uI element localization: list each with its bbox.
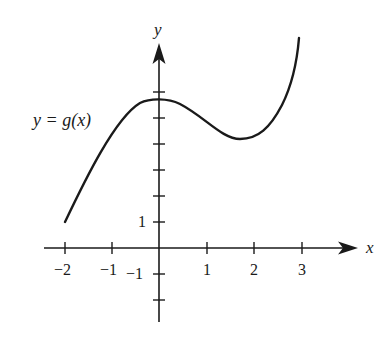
y-tick-label-1: 1 — [138, 213, 146, 230]
x-tick-label: −1 — [100, 261, 117, 278]
function-label: y = g(x) — [31, 110, 91, 131]
y-tick-label-neg1: −1 — [126, 265, 143, 282]
x-axis-label: x — [365, 238, 374, 257]
x-tick-label: 2 — [250, 261, 258, 278]
curve-g — [65, 38, 299, 222]
x-tick-label: −2 — [54, 261, 71, 278]
graph-of-g: x y −2 −1 1 2 3 1 −1 y = g(x) — [0, 0, 381, 344]
x-tick-label: 1 — [203, 261, 211, 278]
y-axis-label: y — [152, 20, 162, 39]
y-axis: y — [152, 20, 166, 322]
x-tick-label: 3 — [298, 261, 306, 278]
x-axis: x — [44, 238, 374, 257]
x-tick-labels: −2 −1 1 2 3 — [54, 261, 306, 278]
